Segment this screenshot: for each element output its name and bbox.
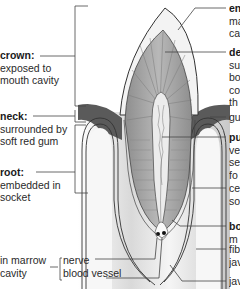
label-cement-desc-1: ce	[229, 182, 240, 194]
label-crown: crown: exposed to mouth cavity	[0, 49, 59, 87]
label-pulp-desc-2: se	[229, 156, 240, 168]
label-bone-term: bo	[229, 220, 240, 232]
label-fibres: fib jav	[229, 243, 240, 268]
label-dentine-desc-2: bo	[229, 71, 240, 83]
label-neck: neck: surrounded by soft red gum	[0, 110, 67, 148]
label-fibres-desc-1: fib	[229, 243, 240, 255]
label-cement: ce so	[229, 182, 240, 207]
label-root-desc-1: embedded in	[0, 179, 61, 191]
label-dentine-term: de	[229, 46, 240, 58]
label-neck-desc-1: surrounded by	[0, 123, 67, 135]
label-dentine: de su bo co th	[229, 46, 240, 109]
label-marrow-line-1: in marrow	[0, 254, 46, 266]
label-marrow-items: nerve blood vessel	[63, 254, 121, 279]
label-enamel-desc-1: ma	[229, 15, 240, 27]
label-pulp-term: pu	[229, 131, 240, 143]
label-pulp-desc-1: ve	[229, 144, 240, 156]
label-pulp-desc-3: fo	[229, 169, 238, 181]
label-pulp: pu ve se fo	[229, 131, 240, 181]
label-root-term: root:	[0, 166, 24, 178]
label-marrow-cavity: in marrow cavity	[0, 254, 46, 279]
label-marrow-line-2: cavity	[0, 267, 27, 279]
label-blood-vessel: blood vessel	[63, 267, 121, 279]
label-jawbone: jav	[229, 275, 240, 288]
label-fibres-desc-2: jav	[229, 256, 240, 268]
label-enamel: en ma ca	[229, 2, 240, 40]
label-neck-desc-2: soft red gum	[0, 135, 58, 147]
label-root-desc-2: socket	[0, 191, 30, 203]
label-jawbone-desc-1: jav	[229, 275, 240, 287]
label-dentine-desc-3: co	[229, 84, 240, 96]
label-dentine-desc-4: th	[229, 96, 238, 108]
label-crown-term: crown:	[0, 49, 34, 61]
label-enamel-desc-2: ca	[229, 27, 240, 39]
label-enamel-term: en	[229, 2, 240, 14]
label-bone: bo m	[229, 220, 240, 245]
label-cement-desc-2: so	[229, 195, 240, 207]
label-neck-term: neck:	[0, 110, 27, 122]
label-root: root: embedded in socket	[0, 166, 61, 204]
label-gum: gu	[229, 111, 240, 124]
bone-right	[196, 128, 220, 289]
blood-vessel-dot	[162, 231, 166, 235]
label-crown-desc-2: mouth cavity	[0, 74, 59, 86]
label-crown-desc-1: exposed to	[0, 62, 51, 74]
label-gum-desc-1: gu	[229, 111, 240, 123]
label-dentine-desc-1: su	[229, 59, 240, 71]
label-nerve: nerve	[63, 254, 89, 266]
